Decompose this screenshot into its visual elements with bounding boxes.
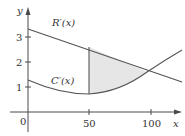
y-axis-arrow-icon (26, 7, 31, 15)
y-tick-label-2: 2 (16, 57, 22, 68)
y-tick-label-1: 1 (16, 82, 22, 93)
c-prime-label: C′(x) (51, 75, 74, 86)
x-axis-label: x (173, 118, 179, 129)
x-tick-label-50: 50 (83, 118, 96, 129)
origin-label: 0 (20, 116, 26, 127)
x-axis-arrow-icon (174, 110, 182, 115)
shaded-area (89, 47, 147, 94)
y-tick-label-3: 3 (16, 32, 22, 43)
y-axis-label: y (16, 5, 23, 16)
chart-canvas: y x 0 50 100 1 2 3 R′(x) C′(x) (0, 0, 185, 136)
r-prime-label: R′(x) (51, 17, 75, 28)
x-tick-label-100: 100 (142, 118, 161, 129)
